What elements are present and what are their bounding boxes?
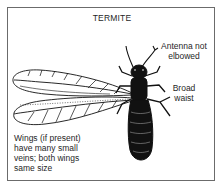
- lower-wing: [14, 97, 132, 125]
- label-wings-line-3: veins; both wings: [14, 153, 94, 163]
- abdomen: [128, 100, 153, 160]
- label-wings-line-1: Wings (if present): [14, 133, 94, 143]
- label-wings: Wings (if present) have many small veins…: [14, 133, 94, 173]
- label-waist-line-1: Broad: [166, 83, 202, 93]
- label-waist: Broad waist: [166, 83, 202, 103]
- label-wings-line-2: have many small: [14, 143, 94, 153]
- head: [131, 65, 147, 79]
- upper-wing: [13, 70, 132, 96]
- thorax: [131, 78, 147, 100]
- label-antenna: Antenna not elbowed: [154, 41, 214, 61]
- label-antenna-line-2: elbowed: [154, 51, 214, 61]
- label-antenna-line-1: Antenna not: [154, 41, 214, 51]
- label-wings-line-4: same size: [14, 163, 94, 173]
- label-waist-line-2: waist: [166, 93, 202, 103]
